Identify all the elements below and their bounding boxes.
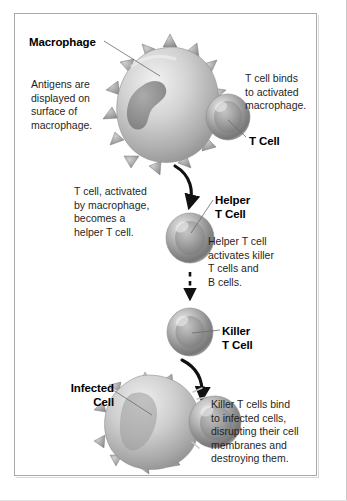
caption-killer-binds: Killer T cells bind to infected cells, d… [211,398,335,466]
caption-t-cell-binds: T cell binds to activated macrophage. [245,72,345,113]
caption-helper-activates: Helper T cell activates killer T cells a… [208,235,320,289]
label-infected-cell: Infected Cell [26,382,114,409]
label-killer-t-cell: Killer T Cell [222,325,253,352]
t-cell [206,94,250,140]
label-t-cell: T Cell [249,135,280,149]
immune-response-diagram: Macrophage Antigens are displayed on sur… [0,0,347,501]
killer-t-cell [167,308,213,356]
label-macrophage: Macrophage [29,36,96,50]
label-helper-t-cell: Helper T Cell [215,194,250,221]
caption-t-cell-activated: T cell, activated by macrophage, becomes… [74,185,192,239]
caption-antigens: Antigens are displayed on surface of mac… [31,78,141,132]
